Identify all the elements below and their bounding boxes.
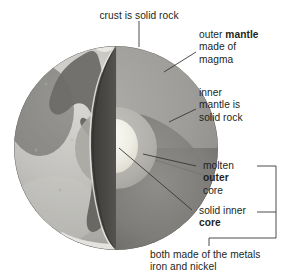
- label-outer-mantle-line1a: outer: [199, 29, 225, 40]
- label-inner-mantle-line3: solid rock: [199, 112, 243, 123]
- label-metals-note-line2: iron and nickel: [150, 261, 216, 272]
- label-crust: crust is solid rock: [78, 10, 200, 22]
- label-outer-mantle-line3: magma: [199, 54, 233, 65]
- label-outer-core-line3: core: [203, 185, 223, 196]
- label-inner-mantle: inner mantle is solid rock: [199, 87, 243, 124]
- label-outer-mantle: outer mantle made of magma: [199, 29, 259, 66]
- label-outer-core: molten outer core: [203, 160, 234, 197]
- label-crust-text: crust is solid rock: [99, 10, 178, 21]
- label-metals-note: both made of the metals iron and nickel: [150, 249, 260, 274]
- label-inner-mantle-line2: mantle is: [199, 99, 240, 110]
- label-inner-core-line2: core: [199, 217, 221, 228]
- label-inner-mantle-line1: inner: [199, 87, 222, 98]
- label-inner-core-line1: solid inner: [199, 205, 246, 216]
- label-outer-mantle-line2: made of: [199, 41, 236, 52]
- label-outer-core-line2: outer: [203, 172, 229, 183]
- label-outer-core-line1: molten: [203, 160, 234, 171]
- earth-cross-section-diagram: crust is solid rock outer mantle made of…: [0, 0, 290, 279]
- label-outer-mantle-line1b: mantle: [225, 29, 258, 40]
- label-inner-core: solid inner core: [199, 205, 246, 230]
- label-metals-note-line1: both made of the metals: [150, 249, 260, 260]
